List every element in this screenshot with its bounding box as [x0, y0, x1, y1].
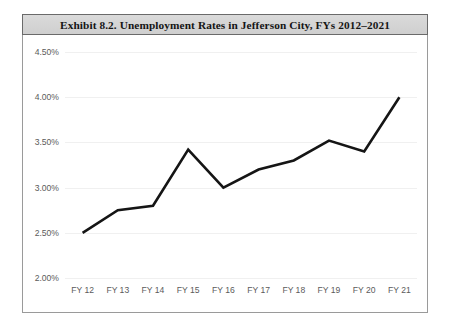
- x-axis-tick-label: FY 14: [142, 285, 165, 295]
- x-axis-tick-label: FY 15: [177, 285, 200, 295]
- y-axis-tick-label: 3.00%: [35, 183, 59, 193]
- plot-area: 2.00%2.50%3.00%3.50%4.00%4.50% FY 12FY 1…: [65, 52, 417, 278]
- y-axis-tick-label: 4.50%: [35, 47, 59, 57]
- chart-frame: 2.00%2.50%3.00%3.50%4.00%4.50% FY 12FY 1…: [22, 35, 428, 313]
- unemployment-rate-line: [83, 97, 400, 233]
- x-axis-tick-label: FY 17: [247, 285, 270, 295]
- x-axis-tick-label: FY 16: [212, 285, 235, 295]
- y-axis-tick-label: 4.00%: [35, 92, 59, 102]
- y-axis-tick-label: 2.50%: [35, 228, 59, 238]
- exhibit-title-banner: Exhibit 8.2. Unemployment Rates in Jeffe…: [22, 14, 428, 35]
- gridline: [65, 278, 417, 279]
- line-series-svg: [65, 52, 417, 278]
- x-axis-tick-label: FY 20: [353, 285, 376, 295]
- exhibit-figure: Exhibit 8.2. Unemployment Rates in Jeffe…: [0, 0, 456, 335]
- x-axis-tick-label: FY 19: [318, 285, 341, 295]
- y-axis-tick-label: 3.50%: [35, 137, 59, 147]
- y-axis-tick-label: 2.00%: [35, 273, 59, 283]
- exhibit-title-text: Exhibit 8.2. Unemployment Rates in Jeffe…: [60, 19, 390, 31]
- x-axis-tick-label: FY 18: [282, 285, 305, 295]
- x-axis-tick-label: FY 12: [71, 285, 94, 295]
- x-axis-tick-label: FY 21: [388, 285, 411, 295]
- x-axis-tick-label: FY 13: [106, 285, 129, 295]
